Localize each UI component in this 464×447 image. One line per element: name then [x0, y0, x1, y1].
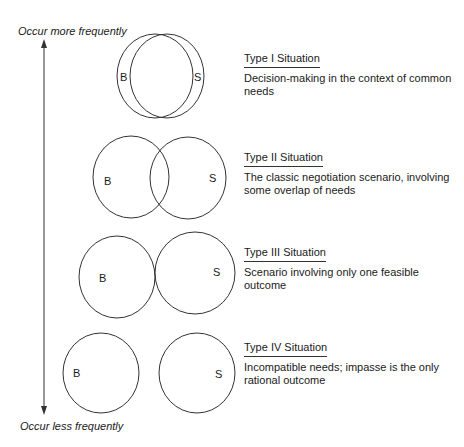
description-line: Incompatible needs; impasse is the only [244, 361, 459, 374]
seller-circle [155, 232, 235, 314]
seller-circle [159, 333, 235, 413]
situation-description: Scenario involving only one feasible out… [244, 266, 459, 291]
buyer-circle [117, 34, 193, 118]
buyer-circle [79, 236, 155, 318]
situation-title: Type IV Situation [244, 341, 327, 357]
arrow-up-icon [41, 39, 47, 48]
situation-title: Type I Situation [244, 52, 320, 68]
venn-type-2: B S [93, 136, 226, 219]
seller-label: S [215, 368, 222, 380]
situation-type-4: Type IV Situation Incompatible needs; im… [244, 337, 459, 386]
situation-description: Decision-making in the context of common… [244, 72, 459, 97]
axis-bottom-label: Occur less frequently [20, 420, 123, 432]
description-line: some overlap of needs [244, 184, 459, 197]
seller-label: S [209, 172, 216, 184]
description-line: The classic negotiation scenario, involv… [244, 171, 459, 184]
buyer-label: B [120, 71, 127, 83]
situation-description: The classic negotiation scenario, involv… [244, 171, 459, 196]
buyer-label: B [73, 367, 80, 379]
buyer-label: B [104, 175, 111, 187]
frequency-axis-arrow [41, 39, 47, 415]
seller-label: S [213, 266, 220, 278]
venn-type-3: B S [79, 232, 235, 318]
arrow-down-icon [41, 406, 47, 415]
venn-type-1: B S [117, 34, 204, 118]
buyer-label: B [99, 272, 106, 284]
axis-top-label: Occur more frequently [18, 25, 127, 37]
description-line: outcome [244, 279, 459, 292]
description-line: Scenario involving only one feasible [244, 266, 459, 279]
situation-type-3: Type III Situation Scenario involving on… [244, 242, 459, 291]
description-line: Decision-making in the context of common [244, 72, 459, 85]
situation-title: Type II Situation [244, 151, 323, 167]
situation-description: Incompatible needs; impasse is the only … [244, 361, 459, 386]
description-line: rational outcome [244, 374, 459, 387]
description-line: needs [244, 85, 459, 98]
situation-title: Type III Situation [244, 246, 326, 262]
venn-type-4: B S [63, 333, 235, 413]
situation-type-1: Type I Situation Decision-making in the … [244, 48, 459, 97]
situation-type-2: Type II Situation The classic negotiatio… [244, 147, 459, 196]
seller-label: S [194, 71, 201, 83]
